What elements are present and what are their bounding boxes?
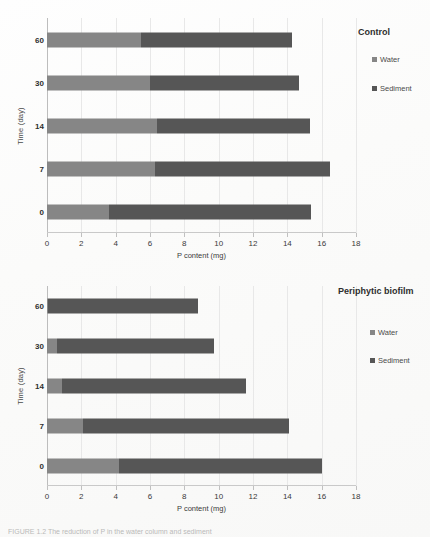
x-axis-title-control: P content (mg) (177, 251, 226, 260)
bar-day-60[interactable] (47, 32, 292, 47)
y-axis-title-biofilm: Time (day) (16, 367, 25, 405)
bar-segment-water-day-0[interactable] (47, 204, 109, 219)
bar-segment-water-day-30[interactable] (47, 75, 150, 90)
x-tick-10 (219, 486, 220, 490)
y-tick-label-0: 0 (40, 462, 44, 471)
bar-segment-sediment-day-0[interactable] (119, 459, 322, 474)
bar-day-30[interactable] (47, 75, 299, 90)
bar-segment-water-day-0[interactable] (47, 459, 119, 474)
x-tick-16 (322, 233, 323, 237)
legend-biofilm: Periphytic biofilm WaterSediment (330, 268, 430, 520)
x-tick-label-4: 4 (113, 239, 117, 248)
x-tick-6 (150, 233, 151, 237)
bar-segment-sediment-day-7[interactable] (155, 161, 330, 176)
y-tick-label-60: 60 (35, 302, 44, 311)
legend-label-sediment: Sediment (380, 84, 412, 93)
bar-segment-sediment-day-14[interactable] (62, 379, 247, 394)
x-tick-2 (81, 486, 82, 490)
x-tick-label-12: 12 (249, 239, 258, 248)
bar-day-0[interactable] (47, 459, 322, 474)
legend-swatch-water-icon (372, 57, 377, 62)
gridline-x-12 (253, 286, 254, 486)
x-tick-14 (287, 233, 288, 237)
bar-day-7[interactable] (47, 419, 289, 434)
y-axis-title-control: Time (day) (16, 107, 25, 145)
y-tick-label-30: 30 (35, 78, 44, 87)
bar-day-30[interactable] (47, 339, 214, 354)
legend-label-sediment: Sediment (378, 356, 410, 365)
bar-segment-sediment-day-60[interactable] (48, 299, 198, 314)
legend-swatch-water-icon (370, 330, 375, 335)
gridline-x-16 (322, 286, 323, 486)
bar-segment-sediment-day-30[interactable] (150, 75, 299, 90)
legend-item-sediment[interactable]: Sediment (370, 356, 410, 365)
bar-segment-sediment-day-7[interactable] (83, 419, 289, 434)
x-tick-label-14: 14 (283, 239, 292, 248)
legend-title-control: Control (358, 27, 390, 37)
x-tick-12 (253, 233, 254, 237)
x-axis-baseline (47, 485, 356, 486)
x-tick-label-8: 8 (182, 492, 186, 501)
plot-wrapper-control: Time (day) 60301470 024681012141618 P co… (0, 0, 430, 268)
x-tick-label-0: 0 (45, 239, 49, 248)
y-tick-label-14: 14 (35, 121, 44, 130)
bar-day-0[interactable] (47, 204, 311, 219)
legend-item-water[interactable]: Water (370, 328, 398, 337)
x-tick-label-8: 8 (182, 239, 186, 248)
x-tick-label-2: 2 (79, 492, 83, 501)
chart-panel-periphytic-biofilm: Time (day) 60301470 024681012141618 P co… (0, 268, 430, 520)
y-tick-label-60: 60 (35, 35, 44, 44)
x-tick-16 (322, 486, 323, 490)
bar-day-14[interactable] (47, 379, 246, 394)
gridline-x-14 (287, 286, 288, 486)
chart-panel-control: Time (day) 60301470 024681012141618 P co… (0, 0, 430, 268)
legend-item-water[interactable]: Water (372, 55, 400, 64)
x-tick-label-2: 2 (79, 239, 83, 248)
bar-segment-water-day-7[interactable] (47, 161, 155, 176)
x-tick-label-4: 4 (113, 492, 117, 501)
x-tick-label-6: 6 (148, 239, 152, 248)
legend-label-water: Water (378, 328, 398, 337)
x-axis-title-biofilm: P content (mg) (177, 504, 226, 513)
gridline-x-16 (322, 18, 323, 233)
y-tick-label-30: 30 (35, 342, 44, 351)
bar-day-14[interactable] (47, 118, 310, 133)
x-tick-8 (184, 486, 185, 490)
figure-caption: FIGURE 1.2 The reduction of P in the wat… (8, 528, 408, 535)
bar-segment-water-day-7[interactable] (47, 419, 83, 434)
legend-swatch-sediment-icon (372, 86, 377, 91)
x-tick-label-14: 14 (283, 492, 292, 501)
bar-segment-water-day-60[interactable] (47, 32, 141, 47)
x-axis-baseline (47, 232, 356, 233)
plot-wrapper-biofilm: Time (day) 60301470 024681012141618 P co… (0, 268, 430, 520)
bar-segment-water-day-14[interactable] (47, 379, 62, 394)
x-tick-label-12: 12 (249, 492, 258, 501)
x-tick-label-16: 16 (317, 492, 326, 501)
x-tick-14 (287, 486, 288, 490)
bar-segment-sediment-day-30[interactable] (57, 339, 213, 354)
x-tick-12 (253, 486, 254, 490)
legend-title-biofilm: Periphytic biofilm (338, 286, 414, 296)
bar-segment-water-day-30[interactable] (47, 339, 57, 354)
x-tick-label-6: 6 (148, 492, 152, 501)
legend-item-sediment[interactable]: Sediment (372, 84, 412, 93)
x-tick-4 (116, 486, 117, 490)
x-tick-label-10: 10 (214, 492, 223, 501)
bar-segment-sediment-day-0[interactable] (109, 204, 312, 219)
x-tick-0 (47, 233, 48, 237)
y-tick-label-14: 14 (35, 382, 44, 391)
bar-segment-water-day-14[interactable] (47, 118, 157, 133)
x-tick-label-16: 16 (317, 239, 326, 248)
bar-segment-sediment-day-14[interactable] (157, 118, 310, 133)
x-tick-6 (150, 486, 151, 490)
x-tick-label-10: 10 (214, 239, 223, 248)
bar-day-7[interactable] (47, 161, 330, 176)
bar-day-60[interactable] (47, 299, 198, 314)
y-tick-label-0: 0 (40, 207, 44, 216)
legend-control: Control WaterSediment (340, 0, 430, 268)
x-tick-label-0: 0 (45, 492, 49, 501)
x-tick-2 (81, 233, 82, 237)
bar-segment-sediment-day-60[interactable] (141, 32, 292, 47)
x-tick-4 (116, 233, 117, 237)
y-tick-label-7: 7 (40, 164, 44, 173)
